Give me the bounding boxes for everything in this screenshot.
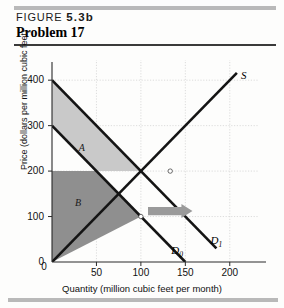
figure-page: FIGURE 5.3b Problem 17 bbox=[0, 0, 284, 308]
y-tick-label: 100 bbox=[0, 211, 44, 222]
y-tick-label: 400 bbox=[0, 74, 44, 85]
y-axis-title: Price (dollars per million cubic feet) bbox=[19, 20, 29, 180]
bottom-rule bbox=[8, 298, 278, 302]
y-tick-label: 200 bbox=[0, 165, 44, 176]
curve-label-d1: D1 bbox=[210, 234, 222, 249]
x-tick-label: 100 bbox=[127, 267, 155, 278]
x-axis-title: Quantity (million cubic feet per month) bbox=[0, 283, 284, 294]
x-tick-label: 50 bbox=[82, 267, 110, 278]
y-tick-label: 300 bbox=[0, 120, 44, 131]
curve-label-d0: D0 bbox=[171, 244, 183, 259]
title-underline-rule bbox=[14, 44, 276, 46]
region-label-a: A bbox=[79, 142, 85, 153]
x-tick-label: 0 bbox=[30, 261, 58, 272]
x-tick-label: 200 bbox=[216, 267, 244, 278]
x-tick-label: 150 bbox=[171, 267, 199, 278]
region-label-b: B bbox=[75, 197, 81, 208]
figure-label-number: 5.3b bbox=[66, 11, 94, 23]
curve-label-s: S bbox=[241, 69, 247, 81]
top-rule bbox=[14, 6, 276, 10]
